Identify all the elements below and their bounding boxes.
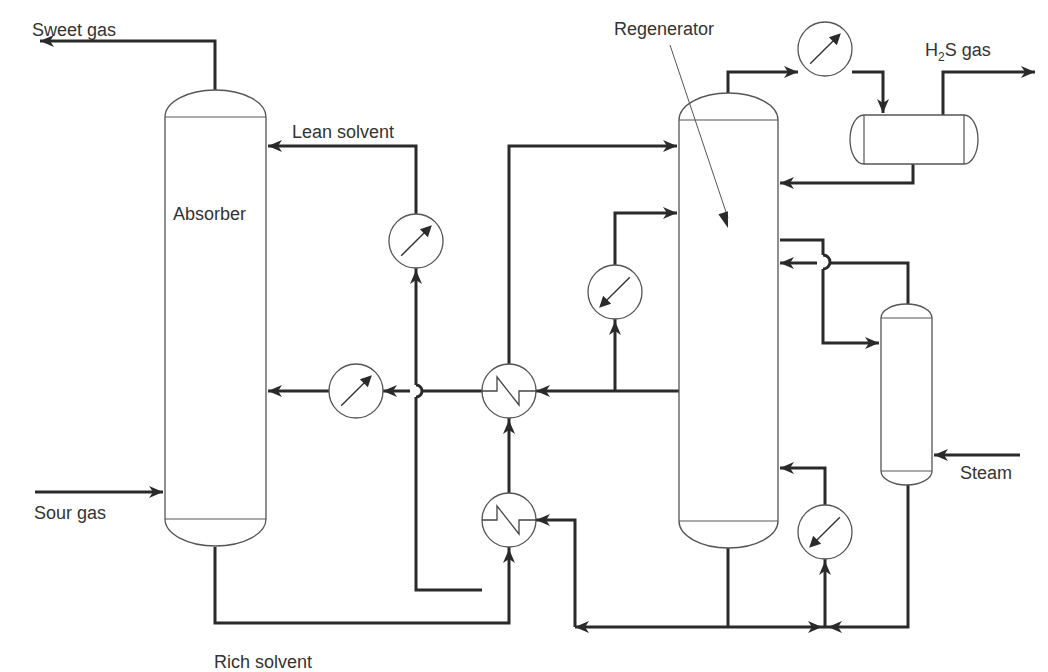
- h2s-h: H: [925, 40, 938, 60]
- bottom-reboiler-icon: [798, 505, 852, 559]
- steam-label: Steam: [960, 463, 1012, 483]
- sweet-gas-label: Sweet gas: [32, 20, 116, 40]
- side-heater-icon: [588, 265, 642, 319]
- lean-solvent-label: Lean solvent: [292, 122, 394, 142]
- stripper-return-pipe: [780, 263, 908, 304]
- regen-bottom-header-pipe: [575, 548, 825, 627]
- jump-side-draw: [823, 255, 830, 269]
- drum-reflux-pipe: [780, 164, 913, 183]
- overhead-condenser-icon: [798, 22, 852, 76]
- regenerator-label: Regenerator: [614, 19, 714, 39]
- hx-to-regen-top-pipe: [509, 146, 677, 364]
- reflux-drum: [850, 115, 978, 164]
- h2s-gas-label: H2S gas: [925, 40, 991, 64]
- regenerator-vessel: [679, 93, 778, 548]
- lean-solvent-top-pipe: [268, 146, 416, 214]
- sweet-gas-out-pipe: [40, 41, 215, 90]
- absorber-label: Absorber: [173, 204, 246, 224]
- sour-gas-label: Sour gas: [34, 503, 106, 523]
- reboiler-column-vessel: [881, 304, 932, 485]
- h2s-rest: S gas: [945, 40, 991, 60]
- lean-solvent-riser-pipe: [416, 268, 482, 590]
- rich-solvent-pipe: [215, 547, 509, 623]
- lean-rich-exchanger-1-icon: [482, 364, 536, 418]
- absorber-vessel: [165, 90, 266, 546]
- reboiler-return-pipe: [780, 468, 825, 505]
- gas-sweetening-process-diagram: Sweet gas Lean solvent Absorber Sour gas…: [0, 0, 1048, 672]
- regen-side-draw-pipe: [780, 240, 879, 343]
- condenser-to-drum-pipe: [852, 72, 883, 113]
- regen-hot-to-hx2-pipe: [536, 520, 575, 627]
- lean-cooler-top-icon: [389, 214, 443, 268]
- h2s-out-pipe: [943, 72, 1035, 115]
- jump-lean-riser: [416, 385, 422, 397]
- rich-solvent-label: Rich solvent: [214, 652, 312, 672]
- vessels-layer: [165, 90, 978, 548]
- lean-rich-exchanger-2-icon: [482, 493, 536, 547]
- lean-cooler-mid-icon: [329, 364, 383, 418]
